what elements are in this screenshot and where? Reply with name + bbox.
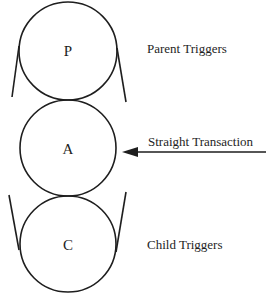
child-triggers-label: Child Triggers (147, 237, 223, 252)
child-right-tangent-line (116, 192, 126, 252)
parent-left-tangent-line (12, 46, 19, 97)
trigger-diagram: P A C Parent Triggers Straight Transacti… (0, 0, 271, 299)
child-left-tangent-line (9, 195, 19, 250)
parent-right-tangent-line (117, 48, 126, 102)
arrowhead-icon (122, 147, 138, 157)
active-letter: A (63, 141, 74, 157)
parent-node: P (12, 2, 126, 102)
child-letter: C (63, 237, 73, 253)
child-node: C (9, 192, 126, 292)
straight-transaction-label: Straight Transaction (148, 134, 254, 149)
parent-triggers-label: Parent Triggers (147, 41, 227, 56)
parent-letter: P (64, 43, 72, 59)
active-node: A (20, 100, 116, 196)
